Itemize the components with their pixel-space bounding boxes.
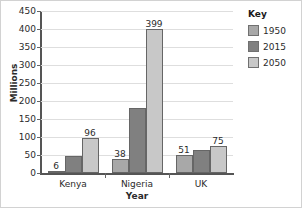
legend-items: 195020152050 [248, 25, 298, 68]
legend-item-label: 2050 [263, 58, 286, 68]
plot-inner: 050100150200250300350400450 696383995175… [41, 11, 233, 173]
bar[interactable]: 399 [146, 29, 163, 173]
bar-value-label: 75 [212, 136, 223, 146]
bar[interactable] [65, 156, 82, 173]
bar[interactable]: 96 [82, 138, 99, 173]
x-axis-line [40, 173, 234, 175]
bar-value-label: 399 [145, 19, 162, 29]
bar-value-label: 38 [114, 149, 125, 159]
y-axis-tick-label: 50 [25, 150, 36, 160]
bar[interactable]: 51 [176, 155, 193, 173]
y-axis-tick-label: 450 [19, 6, 36, 16]
y-axis-tick-label: 100 [19, 132, 36, 142]
x-axis-tick [169, 173, 170, 178]
legend: Key 195020152050 [248, 9, 298, 73]
bar-group: 696 [41, 11, 105, 173]
bar-chart-figure: Millions 050100150200250300350400450 696… [0, 0, 302, 208]
legend-item[interactable]: 2015 [248, 41, 298, 52]
chart-title [1, 0, 241, 2]
bar-group: 38399 [105, 11, 169, 173]
bar-group-bars: 696 [41, 11, 105, 173]
bar[interactable] [129, 108, 146, 173]
legend-item[interactable]: 2050 [248, 57, 298, 68]
x-axis-title: Year [41, 191, 233, 201]
y-axis-tick-label: 300 [19, 60, 36, 70]
bar[interactable] [193, 150, 210, 173]
x-axis-category-label: UK [169, 179, 233, 189]
bar-group-bars: 38399 [105, 11, 169, 173]
bar-value-label: 96 [84, 128, 95, 138]
legend-swatch-icon [248, 57, 259, 68]
legend-item[interactable]: 1950 [248, 25, 298, 36]
bar-group-bars: 5175 [169, 11, 233, 173]
y-axis-tick-label: 350 [19, 42, 36, 52]
y-axis-tick-label: 150 [19, 114, 36, 124]
y-axis-tick-label: 0 [30, 168, 36, 178]
bar-value-label: 51 [178, 145, 189, 155]
x-axis-category-label: Kenya [41, 179, 105, 189]
legend-title: Key [248, 9, 298, 19]
legend-item-label: 1950 [263, 26, 286, 36]
x-axis-tick [105, 173, 106, 178]
legend-swatch-icon [248, 25, 259, 36]
legend-swatch-icon [248, 41, 259, 52]
bar[interactable]: 38 [112, 159, 129, 173]
y-axis-tick-label: 250 [19, 78, 36, 88]
bar-value-label: 6 [53, 161, 59, 171]
y-axis-tick-label: 400 [19, 24, 36, 34]
bar[interactable]: 6 [48, 171, 65, 173]
y-axis-tick [37, 173, 41, 174]
bar[interactable]: 75 [210, 146, 227, 173]
y-axis-tick-label: 200 [19, 96, 36, 106]
legend-item-label: 2015 [263, 42, 286, 52]
plot-area: 050100150200250300350400450 696383995175… [41, 11, 233, 173]
y-axis-title: Millions [9, 53, 19, 113]
bar-group: 5175 [169, 11, 233, 173]
x-axis-category-label: Nigeria [105, 179, 169, 189]
